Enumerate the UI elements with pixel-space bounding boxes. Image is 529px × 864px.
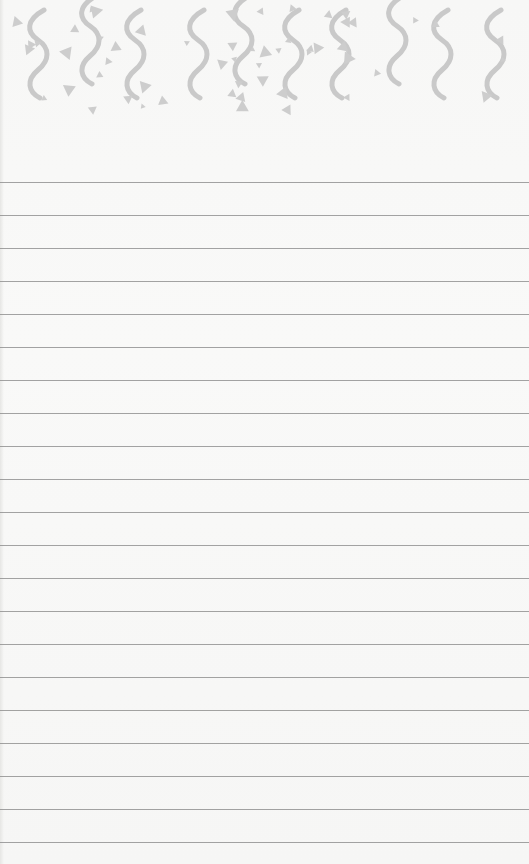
triangle-confetti-icon <box>275 48 281 54</box>
triangle-confetti-icon <box>324 10 333 18</box>
squiggle-icon <box>190 10 207 98</box>
triangle-confetti-icon <box>260 45 273 57</box>
ruled-line <box>0 347 529 348</box>
triangle-confetti-icon <box>374 69 381 76</box>
ruled-line <box>0 380 529 381</box>
ruled-line <box>0 182 529 183</box>
triangle-confetti-icon <box>105 57 112 65</box>
ruled-line <box>0 314 529 315</box>
triangle-confetti-icon <box>281 105 290 116</box>
triangle-confetti-icon <box>413 17 419 24</box>
triangle-confetti-icon <box>314 43 325 55</box>
ruled-line <box>0 545 529 546</box>
ruled-line <box>0 776 529 777</box>
triangle-confetti-icon <box>227 89 236 98</box>
squiggle-icon <box>389 0 406 84</box>
triangle-confetti-icon <box>135 24 146 35</box>
ruled-line <box>0 446 529 447</box>
triangle-confetti-icon <box>235 92 245 102</box>
squiggle-icon <box>487 10 504 98</box>
squiggle-icon <box>285 10 302 98</box>
triangle-confetti-icon <box>217 60 228 70</box>
ruled-line <box>0 215 529 216</box>
triangle-confetti-icon <box>88 106 97 114</box>
triangle-confetti-icon <box>257 8 264 16</box>
triangle-confetti-icon <box>140 81 152 93</box>
triangle-confetti-icon <box>257 76 269 86</box>
triangle-confetti-icon <box>184 41 190 46</box>
notepad-page <box>0 0 529 864</box>
triangle-confetti-icon <box>91 5 104 18</box>
ruled-line <box>0 248 529 249</box>
ruled-line <box>0 743 529 744</box>
ruled-line <box>0 842 529 843</box>
ruled-line <box>0 809 529 810</box>
triangle-confetti-icon <box>111 41 122 51</box>
triangle-confetti-icon <box>256 63 262 69</box>
triangle-confetti-icon <box>158 95 168 105</box>
confetti-header-decoration <box>0 0 529 120</box>
triangle-confetti-icon <box>70 24 79 32</box>
triangle-confetti-icon <box>227 42 237 51</box>
ruled-line <box>0 512 529 513</box>
squiggle-icon <box>30 10 47 98</box>
triangle-confetti-icon <box>340 17 350 28</box>
ruled-line <box>0 281 529 282</box>
triangle-confetti-icon <box>96 71 103 78</box>
triangle-confetti-icon <box>343 94 349 101</box>
triangle-confetti-icon <box>12 16 23 27</box>
ruled-line <box>0 479 529 480</box>
triangle-confetti-icon <box>63 85 76 97</box>
triangle-confetti-icon <box>59 47 72 60</box>
ruled-line <box>0 413 529 414</box>
left-edge-shadow <box>0 0 4 864</box>
ruled-line <box>0 710 529 711</box>
triangle-confetti-icon <box>276 87 288 99</box>
triangle-confetti-icon <box>123 96 132 104</box>
ruled-line <box>0 644 529 645</box>
ruled-line <box>0 677 529 678</box>
triangle-confetti-icon <box>141 104 146 109</box>
triangle-confetti-icon <box>236 100 249 111</box>
ruled-line <box>0 611 529 612</box>
ruled-line <box>0 578 529 579</box>
